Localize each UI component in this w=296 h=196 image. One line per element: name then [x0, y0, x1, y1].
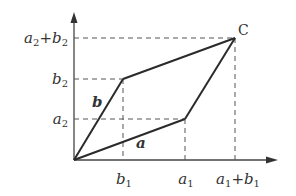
- side-a-to-c: [185, 38, 235, 119]
- y-axis-arrow-icon: [71, 12, 78, 23]
- vector-a-label: a: [136, 134, 146, 152]
- x-axis-arrow-icon: [266, 157, 278, 164]
- y-label-a2-plus-b2: a2+b2: [24, 29, 68, 48]
- vector-addition-diagram: a b C a2+b2 b2 a2 b1 a1 a1+b1: [0, 0, 296, 196]
- vector-b: [74, 79, 123, 160]
- vector-a: [74, 119, 185, 160]
- y-label-b2: b2: [52, 70, 68, 89]
- y-label-a2: a2: [53, 110, 68, 129]
- x-label-b1: b1: [116, 170, 132, 189]
- point-c-label: C: [238, 22, 249, 38]
- x-label-a1-plus-b1: a1+b1: [216, 170, 260, 189]
- side-b-to-c: [123, 38, 235, 79]
- vector-b-label: b: [92, 93, 103, 111]
- x-label-a1: a1: [178, 170, 193, 189]
